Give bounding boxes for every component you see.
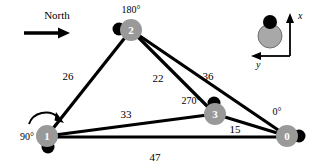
network-diagram-svg: 26 22 36 33 15 47 0 0° 1 90° 2 180°: [0, 0, 317, 167]
edge-label-1-2: 26: [63, 70, 75, 82]
edge-label-3-0: 15: [230, 123, 242, 135]
node-1-label: 1: [44, 130, 50, 142]
node-0-label: 0: [284, 130, 290, 142]
arrow-right-icon: [24, 28, 70, 39]
node-1-angle-label: 90°: [20, 131, 34, 142]
north-indicator: North: [24, 9, 70, 39]
node-2[interactable]: 2 180°: [113, 4, 143, 41]
node-2-angle-label: 180°: [122, 4, 141, 15]
north-label: North: [44, 9, 70, 21]
edge-label-2-0: 36: [203, 70, 215, 82]
node-0-angle-label: 0°: [273, 106, 282, 117]
edge-group: [47, 30, 287, 137]
edge-3-0: [215, 114, 287, 136]
node-3[interactable]: 3 270°: [182, 95, 227, 125]
y-axis-label: y: [255, 59, 261, 70]
node-1[interactable]: 1 90°: [20, 125, 58, 154]
node-3-label: 3: [212, 108, 218, 120]
legend-axes: x y: [251, 10, 303, 70]
edge-label-2-3: 22: [153, 72, 164, 84]
x-axis-arrowhead: [286, 13, 294, 23]
node-2-label: 2: [128, 24, 134, 36]
legend-robot-heading-marker: [263, 15, 277, 29]
edge-label-1-0: 47: [150, 151, 162, 163]
node-0[interactable]: 0 0°: [273, 106, 306, 147]
edge-label-1-3: 33: [121, 108, 133, 120]
x-axis-label: x: [297, 10, 303, 21]
diagram-canvas: 26 22 36 33 15 47 0 0° 1 90° 2 180°: [0, 0, 317, 167]
node-3-angle-label: 270°: [182, 95, 201, 106]
